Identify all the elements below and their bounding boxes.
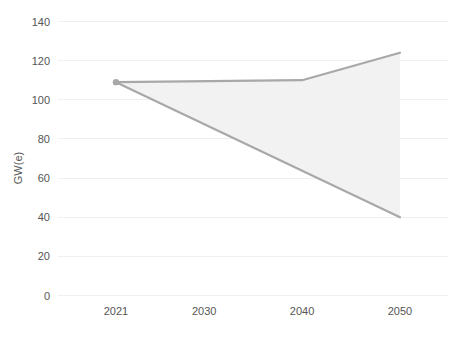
x-axis-tick-label: 2050 — [388, 305, 412, 317]
y-axis-tick-label: 120 — [32, 55, 50, 67]
x-axis-tick-label: 2040 — [290, 305, 314, 317]
start-point-marker — [113, 79, 119, 85]
y-axis-tick-label: 60 — [38, 172, 50, 184]
x-axis-tick-label: 2030 — [192, 305, 216, 317]
y-axis-title: GW(e) — [12, 152, 24, 184]
chart-container: 020406080100120140 2021203020402050 GW(e… — [0, 0, 460, 337]
y-axis-tick-label: 140 — [32, 16, 50, 28]
fan-chart: 020406080100120140 2021203020402050 GW(e… — [0, 0, 460, 337]
y-axis-tick-label: 20 — [38, 250, 50, 262]
y-axis-tick-label: 100 — [32, 94, 50, 106]
y-axis-tick-label: 40 — [38, 211, 50, 223]
x-axis-tick-label: 2021 — [104, 305, 128, 317]
y-axis-tick-label: 80 — [38, 133, 50, 145]
y-axis-tick-label: 0 — [44, 290, 50, 302]
